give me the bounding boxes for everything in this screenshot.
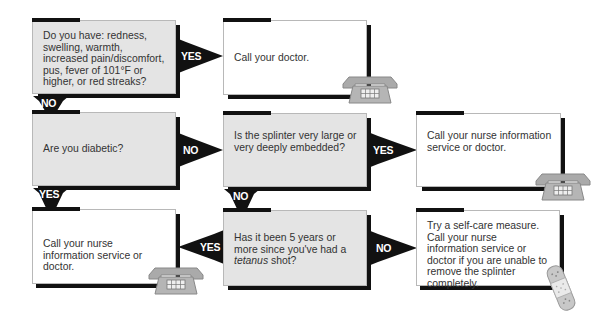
question-symptoms-text: Do you have: redness, swelling, warmth, …: [43, 30, 167, 88]
edge-label-yes: YES: [200, 241, 220, 253]
edge-label-no: NO: [183, 144, 198, 156]
answer-call-doctor-text: Call your doctor.: [234, 52, 358, 64]
question-splinter-large-text: Is the splinter very large or very deepl…: [234, 130, 358, 153]
telephone-icon: [341, 74, 399, 104]
question-tetanus-emphasis: tetanus: [234, 255, 268, 266]
question-tetanus-text: Has it been 5 years or more since you've…: [234, 232, 358, 267]
question-tetanus: Has it been 5 years or more since you've…: [223, 210, 367, 286]
edge-label-no: NO: [41, 97, 56, 109]
question-symptoms: Do you have: redness, swelling, warmth, …: [32, 20, 176, 94]
box-accent-bar: [223, 18, 271, 22]
telephone-icon: [147, 265, 205, 295]
box-accent-bar: [32, 207, 80, 211]
box-accent-bar: [416, 111, 464, 115]
box-accent-bar: [223, 111, 271, 115]
answer-nurse-service-1-text: Call your nurse information service or d…: [427, 130, 552, 153]
edge-label-no: NO: [376, 242, 391, 254]
edge-label-yes: YES: [39, 188, 59, 200]
edge-label-yes: YES: [373, 144, 393, 156]
question-splinter-large: Is the splinter very large or very deepl…: [223, 113, 367, 187]
question-tetanus-text-part: shot?: [268, 255, 296, 266]
box-accent-bar: [416, 208, 464, 212]
edge-label-no: NO: [233, 190, 248, 202]
box-accent-bar: [32, 110, 80, 114]
box-accent-bar: [223, 208, 271, 212]
answer-self-care-text: Try a self-care measure. Call your nurse…: [427, 220, 551, 289]
question-tetanus-text-part: Has it been 5 years or more since you've…: [234, 232, 346, 255]
question-diabetic-text: Are you diabetic?: [43, 143, 167, 155]
bandage-icon: [543, 263, 579, 313]
box-accent-bar: [32, 18, 80, 22]
answer-self-care: Try a self-care measure. Call your nurse…: [416, 210, 560, 286]
question-diabetic: Are you diabetic?: [32, 112, 176, 186]
edge-label-yes: YES: [181, 50, 201, 62]
telephone-icon: [534, 171, 592, 201]
